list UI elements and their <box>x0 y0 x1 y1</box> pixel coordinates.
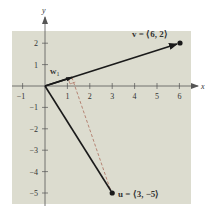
svg-text:2: 2 <box>34 39 38 48</box>
x-axis-label: x <box>200 82 205 91</box>
svg-text:−3: −3 <box>29 146 38 155</box>
svg-text:6: 6 <box>177 92 181 101</box>
svg-text:4: 4 <box>133 92 137 101</box>
svg-text:3: 3 <box>110 92 114 101</box>
svg-text:2: 2 <box>88 92 92 101</box>
vector-u-endpoint <box>110 190 115 195</box>
svg-text:−4: −4 <box>29 168 38 177</box>
svg-text:1: 1 <box>34 61 38 70</box>
svg-text:−2: −2 <box>29 125 38 134</box>
svg-text:−1: −1 <box>17 92 26 101</box>
plot-background <box>12 31 191 204</box>
vector-u-label: u = ⟨3, −5⟩ <box>118 189 159 199</box>
svg-text:−1: −1 <box>29 103 38 112</box>
svg-text:−5: −5 <box>29 189 38 198</box>
vector-projection-diagram: x y −1 1 2 3 4 5 6 2 1 −1 −2 −3 −4 − <box>0 0 213 217</box>
vector-v-label: v = ⟨6, 2⟩ <box>132 29 168 39</box>
svg-text:5: 5 <box>155 92 159 101</box>
svg-text:1: 1 <box>65 92 69 101</box>
y-axis-label: y <box>41 6 46 15</box>
vector-v-endpoint <box>177 40 182 45</box>
